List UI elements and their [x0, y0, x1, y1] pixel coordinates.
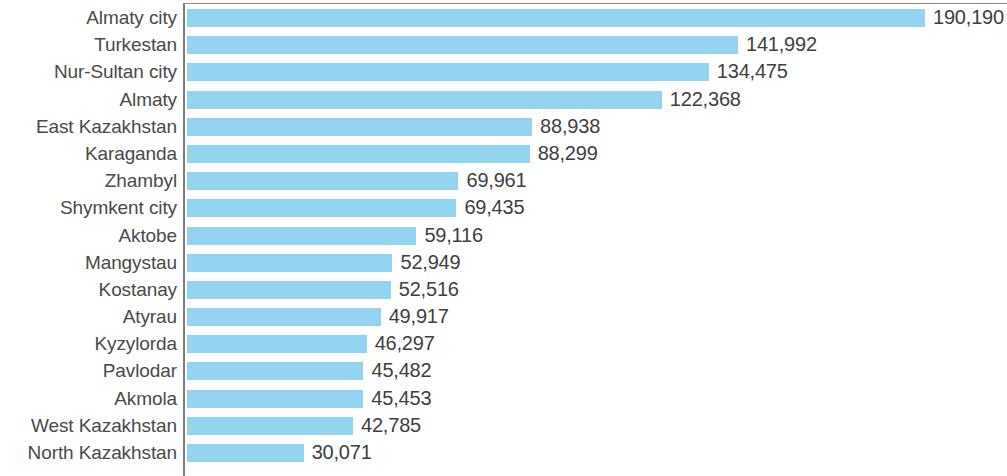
bar [187, 444, 304, 462]
bar [187, 335, 367, 353]
bar-value-label: 88,299 [538, 141, 598, 168]
bar [187, 118, 532, 136]
bar-track: 134,475 [187, 59, 1007, 86]
bar-track: 52,516 [187, 277, 1007, 304]
bar-track: 59,116 [187, 223, 1007, 250]
category-label: Mangystau [85, 250, 177, 277]
bar [187, 145, 530, 163]
bar-row: West Kazakhstan42,785 [0, 413, 1007, 440]
bar-row: Mangystau52,949 [0, 250, 1007, 277]
bar-row: Aktobe59,116 [0, 223, 1007, 250]
category-label: Zhambyl [105, 168, 177, 195]
bar-row: Kostanay52,516 [0, 277, 1007, 304]
bar [187, 362, 363, 380]
bar-rows-container: Almaty city190,190Turkestan141,992Nur-Su… [0, 5, 1007, 467]
bar-value-label: 45,453 [371, 386, 431, 413]
category-label: Karaganda [85, 141, 177, 168]
bar [187, 308, 381, 326]
bar-value-label: 46,297 [375, 331, 435, 358]
category-label: Nur-Sultan city [54, 59, 177, 86]
bar-track: 46,297 [187, 331, 1007, 358]
bar-value-label: 59,116 [424, 223, 483, 250]
bar-track: 88,938 [187, 114, 1007, 141]
bar-track: 141,992 [187, 32, 1007, 59]
bar-value-label: 190,190 [933, 5, 1004, 32]
category-label: Atyrau [123, 304, 177, 331]
plot-top-border [183, 3, 1007, 4]
bar-row: Akmola45,453 [0, 386, 1007, 413]
bar-row: North Kazakhstan30,071 [0, 440, 1007, 467]
bar-value-label: 49,917 [389, 304, 449, 331]
bar [187, 172, 458, 190]
horizontal-bar-chart: Almaty city190,190Turkestan141,992Nur-Su… [0, 0, 1007, 476]
bar-row: Turkestan141,992 [0, 32, 1007, 59]
bar-row: Kyzylorda46,297 [0, 331, 1007, 358]
bar-row: Pavlodar45,482 [0, 358, 1007, 385]
category-label: Kyzylorda [94, 331, 177, 358]
bar-track: 69,435 [187, 195, 1007, 222]
bar-value-label: 30,071 [312, 440, 372, 467]
category-label: Shymkent city [60, 195, 177, 222]
bar-row: Zhambyl69,961 [0, 168, 1007, 195]
bar [187, 63, 709, 81]
category-label: West Kazakhstan [31, 413, 177, 440]
bar [187, 199, 456, 217]
bar-row: Nur-Sultan city134,475 [0, 59, 1007, 86]
bar-row: Shymkent city69,435 [0, 195, 1007, 222]
bar-track: 88,299 [187, 141, 1007, 168]
bar-row: East Kazakhstan88,938 [0, 114, 1007, 141]
bar-row: Karaganda88,299 [0, 141, 1007, 168]
bar-track: 45,482 [187, 358, 1007, 385]
bar [187, 36, 738, 54]
bar-value-label: 45,482 [371, 358, 431, 385]
category-label: Almaty [120, 87, 177, 114]
bar-track: 69,961 [187, 168, 1007, 195]
category-label: North Kazakhstan [28, 440, 177, 467]
bar-value-label: 52,949 [400, 250, 460, 277]
bar-row: Atyrau49,917 [0, 304, 1007, 331]
bar-track: 30,071 [187, 440, 1007, 467]
category-label: Turkestan [94, 32, 177, 59]
category-label: Almaty city [86, 5, 177, 32]
bar [187, 281, 391, 299]
bar-value-label: 141,992 [746, 32, 817, 59]
bar-row: Almaty city190,190 [0, 5, 1007, 32]
bar-value-label: 69,435 [464, 195, 524, 222]
bar-value-label: 42,785 [361, 413, 421, 440]
bar [187, 254, 392, 272]
bar-row: Almaty122,368 [0, 87, 1007, 114]
category-label: Aktobe [118, 223, 177, 250]
bar-track: 122,368 [187, 87, 1007, 114]
bar-value-label: 122,368 [670, 87, 741, 114]
bar [187, 227, 416, 245]
bar-track: 49,917 [187, 304, 1007, 331]
category-label: Pavlodar [103, 358, 177, 385]
bar [187, 9, 925, 27]
bar-value-label: 69,961 [466, 168, 526, 195]
bar-value-label: 52,516 [399, 277, 459, 304]
bar-value-label: 134,475 [717, 59, 788, 86]
bar [187, 91, 662, 109]
bar-value-label: 88,938 [540, 114, 600, 141]
bar-track: 52,949 [187, 250, 1007, 277]
category-label: Kostanay [99, 277, 177, 304]
bar-track: 45,453 [187, 386, 1007, 413]
bar-track: 190,190 [187, 5, 1007, 32]
bar-track: 42,785 [187, 413, 1007, 440]
category-label: Akmola [114, 386, 177, 413]
bar [187, 390, 363, 408]
category-label: East Kazakhstan [36, 114, 177, 141]
bar [187, 417, 353, 435]
